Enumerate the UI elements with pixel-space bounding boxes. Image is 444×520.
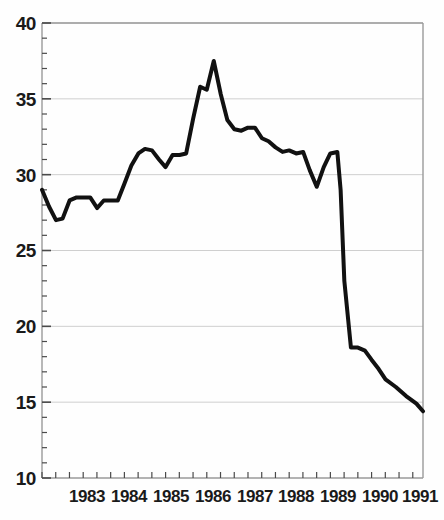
chart-container: 40 35 30 25 20 15 10 1983 1984 1985 1986… [0,0,444,520]
x-axis-ticks [42,472,413,478]
y-axis-ticks [42,23,51,478]
chart-svg [0,0,444,520]
data-series-line [42,61,423,411]
grid-lines [42,23,423,402]
